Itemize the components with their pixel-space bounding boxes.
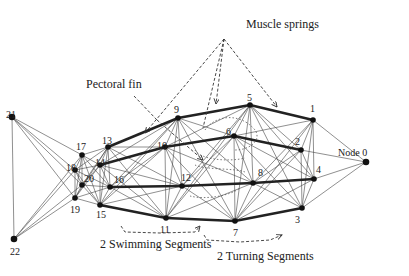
edge-21-19 [12,117,75,198]
edge-13-9 [108,118,178,147]
edge-11-6 [166,136,234,218]
node-label-10: 10 [157,140,167,151]
swimming-segments-label: 2 Swimming Segments [100,237,212,251]
edge-11-7 [166,218,235,221]
node-label-7: 7 [233,227,238,238]
node-15 [97,202,103,208]
edge-15-12 [100,186,182,205]
node-label-8: 8 [258,167,263,178]
edge-16-12 [110,186,182,187]
node-2 [298,147,304,153]
edge-6-7 [234,136,235,221]
node-17 [79,152,85,158]
node-12 [179,183,185,189]
edge-14-11 [100,165,166,218]
node-label-11: 11 [160,224,170,235]
node-label-5: 5 [247,92,252,103]
node-0 [363,159,370,166]
node-label-16: 16 [114,174,124,185]
edge-8-4 [253,179,314,183]
edge-2-4 [301,150,314,179]
node-label-14: 14 [95,157,105,168]
edge-10-11 [165,147,166,218]
edge-6-4 [234,136,314,179]
edge-12-8 [182,183,253,186]
edge-12-7 [182,186,235,221]
edge-21-17 [12,117,82,155]
edge-5-1 [250,105,313,120]
edge-21-22 [12,117,14,239]
node-1 [310,117,316,123]
node-5 [247,102,253,108]
pectoral-fin-label: Pectoral fin [86,77,142,91]
edge-8-3 [253,183,302,208]
node-label-3: 3 [295,214,300,225]
node-7 [232,218,238,224]
edge-1-4 [313,120,314,179]
node-label-4: 4 [316,164,321,175]
turning-segments-label: 2 Turning Segments [217,249,314,263]
node-4 [311,176,317,182]
node-9 [175,115,181,121]
node-label-12: 12 [181,172,191,183]
edge-6-8 [234,136,253,183]
node-label-6: 6 [226,126,231,137]
edge-9-5 [178,105,250,118]
muscle-springs-label: Muscle springs [246,17,319,31]
node-label-9: 9 [174,104,179,115]
node-label-17: 17 [76,141,86,152]
node-16 [107,184,113,190]
node-label-1: 1 [310,103,315,114]
fish-model-diagram: Node 01234567891011121314151617181920212… [0,0,409,276]
node-3 [299,205,305,211]
node-label-0: Node 0 [338,147,367,158]
node-label-2: 2 [295,136,300,147]
node-22 [11,236,18,243]
node-6 [231,133,237,139]
node-label-15: 15 [96,209,106,220]
edge-21-20 [12,117,82,185]
edge-9-11 [166,118,178,218]
node-19 [72,195,78,201]
node-label-13: 13 [102,135,112,146]
edge-4-0 [314,162,366,179]
edge-15-11 [100,205,166,218]
node-label-18: 18 [66,162,76,173]
node-11 [163,215,169,221]
node-label-19: 19 [70,204,80,215]
node-label-20: 20 [84,173,94,184]
edge-5-6 [234,105,250,136]
node-8 [250,180,256,186]
node-label-21: 21 [6,109,16,120]
node-label-22: 22 [10,246,20,257]
edge-12-5 [182,105,250,186]
